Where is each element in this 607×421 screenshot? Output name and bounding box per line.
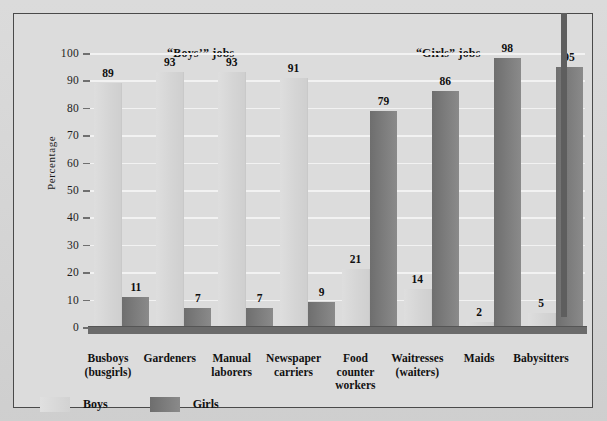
bar-value-label: 91 — [288, 62, 300, 74]
y-tick-50 — [83, 190, 90, 192]
x-axis-label: Babysitters — [498, 352, 584, 366]
bar-value-label: 21 — [350, 253, 362, 265]
legend-swatch-boys — [40, 397, 70, 412]
y-tick-label-0: 0 — [73, 321, 79, 333]
legend-swatch-girls — [150, 397, 180, 412]
y-tick-label-50: 50 — [67, 184, 79, 196]
y-tick-60 — [83, 163, 90, 165]
x-axis-label-line: (waiters) — [374, 366, 460, 380]
bar-girls[interactable]: 7 — [184, 308, 211, 327]
bar-value-label: 7 — [195, 292, 201, 304]
y-tick-20 — [83, 272, 90, 274]
bar-girls[interactable]: 79 — [370, 111, 397, 327]
bar-value-label: 14 — [412, 273, 424, 285]
legend-item-girls[interactable]: Girls — [150, 397, 219, 412]
bar-girls[interactable]: 9 — [308, 302, 335, 327]
x-axis-label-line: workers — [312, 379, 398, 393]
y-tick-label-30: 30 — [67, 239, 79, 251]
bar-girls[interactable]: 98 — [494, 58, 521, 327]
bar-group: 937 — [156, 53, 211, 327]
bar-boys[interactable]: 91 — [280, 78, 308, 327]
y-tick-label-90: 90 — [67, 74, 79, 86]
plot-area: 0102030405060708090100 89119379379192179… — [90, 53, 585, 327]
bar-girls[interactable]: 86 — [432, 91, 459, 327]
y-tick-10 — [83, 300, 90, 302]
bar-value-label: 86 — [440, 75, 452, 87]
y-tick-80 — [83, 108, 90, 110]
y-tick-label-60: 60 — [67, 157, 79, 169]
y-tick-label-70: 70 — [67, 129, 79, 141]
bar-boys[interactable]: 93 — [156, 72, 184, 327]
y-tick-70 — [83, 135, 90, 137]
y-tick-40 — [83, 217, 90, 219]
legend-label: Girls — [193, 397, 219, 412]
y-tick-100 — [83, 53, 90, 55]
bar-girls[interactable]: 11 — [122, 297, 149, 327]
bar-group: 2179 — [342, 53, 397, 327]
bar-value-label: 89 — [102, 67, 114, 79]
bar-girls[interactable]: 95 — [556, 67, 583, 327]
bar-value-label: 2 — [476, 306, 482, 318]
x-axis-label-line: Babysitters — [498, 352, 584, 366]
bar-group: 937 — [218, 53, 273, 327]
chart-page: Percentage “Boys’” jobs“Girls” jobs 0102… — [0, 0, 607, 421]
bar-group: 595 — [528, 53, 583, 327]
bar-group: 1486 — [404, 53, 459, 327]
bar-value-label: 9 — [319, 286, 325, 298]
y-tick-label-80: 80 — [67, 102, 79, 114]
bar-value-label: 93 — [226, 56, 238, 68]
bar-girls[interactable]: 7 — [246, 308, 273, 327]
y-axis-title: Percentage — [45, 136, 57, 190]
x-axis-label-line: (busgirls) — [65, 366, 151, 380]
bar-boys[interactable]: 89 — [94, 83, 122, 327]
legend-label: Boys — [83, 397, 108, 412]
bar-value-label: 7 — [257, 292, 263, 304]
y-tick-label-40: 40 — [67, 211, 79, 223]
bar-boys[interactable]: 93 — [218, 72, 246, 327]
chart-legend: BoysGirls — [40, 397, 219, 412]
bar-value-label: 79 — [378, 95, 390, 107]
y-tick-label-100: 100 — [61, 47, 79, 59]
bar-group: 919 — [280, 53, 335, 327]
right-edge-bar — [561, 13, 567, 317]
bar-value-label: 98 — [501, 42, 513, 54]
bar-value-label: 5 — [538, 297, 544, 309]
bar-value-label: 11 — [131, 281, 142, 293]
bar-boys[interactable]: 5 — [528, 313, 556, 327]
legend-item-boys[interactable]: Boys — [40, 397, 108, 412]
y-tick-label-10: 10 — [67, 294, 79, 306]
chart-frame: Percentage “Boys’” jobs“Girls” jobs 0102… — [13, 13, 593, 408]
bar-group: 8911 — [94, 53, 149, 327]
y-tick-label-20: 20 — [67, 266, 79, 278]
bar-boys[interactable]: 21 — [342, 269, 370, 327]
y-tick-30 — [83, 245, 90, 247]
x-axis-baseline — [88, 326, 587, 334]
bar-value-label: 93 — [164, 56, 176, 68]
y-tick-90 — [83, 80, 90, 82]
bar-boys[interactable]: 14 — [404, 289, 432, 327]
bar-group: 298 — [466, 53, 521, 327]
